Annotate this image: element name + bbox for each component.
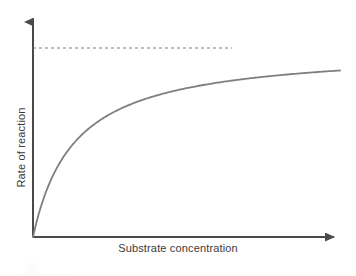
x-axis-label: Substrate concentration — [0, 243, 356, 254]
chart-plot-area — [0, 0, 356, 276]
y-axis-label: Rate of reaction — [16, 73, 27, 223]
chart-figure: Rate of reaction Substrate concentration — [0, 0, 356, 276]
reaction-rate-curve — [33, 70, 340, 237]
